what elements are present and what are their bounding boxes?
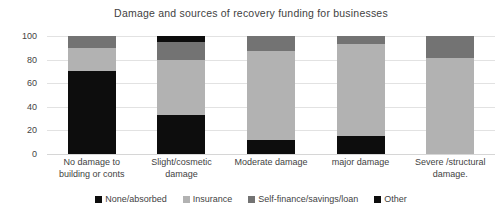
y-axis-tick-label: 80	[27, 55, 37, 65]
x-axis-tick-label: Moderate damage	[226, 157, 316, 193]
x-axis: No damage tobuilding or contsSlight/cosm…	[47, 157, 495, 193]
legend-item[interactable]: Self-finance/savings/loan	[248, 194, 358, 204]
legend-label: Self-finance/savings/loan	[258, 194, 358, 204]
bar-group	[47, 36, 137, 154]
y-axis-tick-label: 0	[32, 149, 37, 159]
x-axis-tick-label: Severe /structuraldamage.	[405, 157, 495, 193]
stacked-bar[interactable]	[337, 36, 385, 154]
y-axis: 100806040200	[0, 36, 42, 154]
stacked-bar[interactable]	[68, 36, 116, 154]
x-axis-label-line: Severe /structural	[406, 157, 494, 169]
x-axis-label-line: Slight/cosmetic	[138, 157, 226, 169]
stacked-bar[interactable]	[247, 36, 295, 154]
bar-segment[interactable]	[157, 42, 205, 60]
bar-segment[interactable]	[337, 136, 385, 154]
y-axis-tick-label: 100	[22, 31, 37, 41]
bar-segment[interactable]	[247, 140, 295, 154]
axis-baseline	[47, 154, 495, 155]
x-axis-tick-label: No damage tobuilding or conts	[47, 157, 137, 193]
legend-label: Insurance	[193, 194, 233, 204]
bar-segment[interactable]	[68, 36, 116, 48]
legend-item[interactable]: None/absorbed	[95, 194, 167, 204]
y-axis-tick-label: 20	[27, 125, 37, 135]
x-axis-tick-label: major damage	[316, 157, 406, 193]
y-axis-tick-label: 40	[27, 102, 37, 112]
x-axis-label-line: major damage	[317, 157, 405, 169]
bar-segment[interactable]	[68, 71, 116, 154]
bar-segment[interactable]	[157, 60, 205, 115]
bar-series-group	[47, 36, 495, 154]
bar-segment[interactable]	[426, 36, 474, 58]
chart-legend: None/absorbedInsuranceSelf-finance/savin…	[0, 194, 502, 204]
x-axis-label-line: building or conts	[48, 169, 136, 181]
bar-segment[interactable]	[426, 58, 474, 154]
bar-group	[137, 36, 227, 154]
bar-segment[interactable]	[337, 44, 385, 136]
legend-swatch-icon	[374, 196, 381, 203]
legend-item[interactable]: Other	[374, 194, 407, 204]
stacked-bar[interactable]	[426, 36, 474, 154]
bar-segment[interactable]	[157, 115, 205, 154]
bar-segment[interactable]	[337, 36, 385, 44]
bar-group	[316, 36, 406, 154]
bar-group	[226, 36, 316, 154]
bar-segment[interactable]	[68, 48, 116, 72]
y-axis-tick-label: 60	[27, 78, 37, 88]
stacked-bar[interactable]	[157, 36, 205, 154]
legend-swatch-icon	[95, 196, 102, 203]
legend-swatch-icon	[248, 196, 255, 203]
legend-item[interactable]: Insurance	[183, 194, 233, 204]
x-axis-tick-label: Slight/cosmeticdamage	[137, 157, 227, 193]
x-axis-label-line: No damage to	[48, 157, 136, 169]
bar-segment[interactable]	[247, 36, 295, 51]
chart-container: Damage and sources of recovery funding f…	[0, 0, 502, 217]
x-axis-label-line: Moderate damage	[227, 157, 315, 169]
legend-label: Other	[384, 194, 407, 204]
plot-area	[47, 36, 495, 154]
legend-swatch-icon	[183, 196, 190, 203]
x-axis-label-line: damage.	[406, 169, 494, 181]
bar-group	[405, 36, 495, 154]
chart-title: Damage and sources of recovery funding f…	[0, 7, 502, 19]
x-axis-label-line: damage	[138, 169, 226, 181]
bar-segment[interactable]	[247, 51, 295, 140]
legend-label: None/absorbed	[105, 194, 167, 204]
